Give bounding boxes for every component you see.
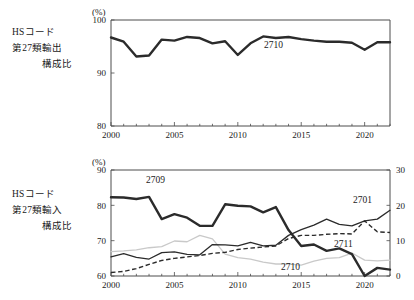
series-label-2709: 2709 bbox=[146, 175, 165, 185]
import-share-chart: (%) 60708090 0102030 2000200520102015202… bbox=[0, 150, 414, 300]
figure-root: HSコード 第27類輸出 構成比 (%) 8090100 20002005201… bbox=[0, 0, 414, 300]
x-tick-2010: 2010 bbox=[229, 130, 248, 140]
x-tick-2015: 2015 bbox=[292, 130, 311, 140]
y-tick-70: 70 bbox=[97, 236, 107, 246]
x-axis-tick-labels: 20002005201020152020 bbox=[102, 280, 374, 290]
x-tick-2005: 2005 bbox=[165, 280, 184, 290]
y2-tick-20: 20 bbox=[396, 201, 406, 211]
plot-frame bbox=[111, 170, 390, 276]
series-label-2710: 2710 bbox=[281, 262, 300, 272]
x-tick-2010: 2010 bbox=[229, 280, 248, 290]
series-label-2701: 2701 bbox=[353, 195, 372, 205]
y2-tick-10: 10 bbox=[396, 236, 406, 246]
x-tick-2020: 2020 bbox=[356, 130, 375, 140]
x-tick-2020: 2020 bbox=[356, 280, 375, 290]
export-share-chart: (%) 8090100 20002005201020152020 2710 bbox=[0, 0, 414, 150]
series-lines bbox=[111, 36, 390, 56]
y-tick-90: 90 bbox=[97, 165, 107, 175]
chart-panel-import: HSコード 第27類輸入 構成比 (%) 60708090 0102030 20… bbox=[0, 150, 414, 300]
y-tick-100: 100 bbox=[93, 15, 107, 25]
axis-tick-marks bbox=[111, 170, 390, 276]
y-axis-tick-labels: 8090100 bbox=[93, 15, 107, 131]
x-tick-2000: 2000 bbox=[102, 130, 121, 140]
y2-tick-0: 0 bbox=[396, 271, 401, 281]
axis-tick-marks bbox=[111, 20, 390, 126]
chart-panel-export: HSコード 第27類輸出 構成比 (%) 8090100 20002005201… bbox=[0, 0, 414, 150]
x-tick-2005: 2005 bbox=[165, 130, 184, 140]
y2-tick-30: 30 bbox=[396, 165, 406, 175]
x-tick-2000: 2000 bbox=[102, 280, 121, 290]
series-lines bbox=[111, 197, 390, 276]
y-tick-80: 80 bbox=[97, 201, 107, 211]
series-label-2710: 2710 bbox=[264, 40, 283, 50]
x-tick-2015: 2015 bbox=[292, 280, 311, 290]
plot-frame bbox=[111, 20, 390, 126]
y-axis-tick-labels: 60708090 bbox=[97, 165, 107, 281]
x-axis-tick-labels: 20002005201020152020 bbox=[102, 130, 374, 140]
series-line-2709 bbox=[111, 197, 390, 276]
secondary-y-axis-tick-labels: 0102030 bbox=[396, 165, 406, 281]
y-tick-90: 90 bbox=[97, 68, 107, 78]
series-line-2710 bbox=[111, 36, 390, 56]
series-label-2711: 2711 bbox=[334, 239, 353, 249]
